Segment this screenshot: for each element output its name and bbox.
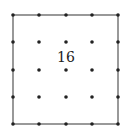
grid-dot: [64, 122, 68, 126]
grid-dot: [11, 122, 15, 126]
grid-dot: [37, 13, 41, 17]
grid-dot: [116, 40, 120, 44]
grid-dots: [11, 13, 120, 126]
grid-dot: [116, 95, 120, 99]
grid-dot: [116, 122, 120, 126]
grid-dot: [11, 13, 15, 17]
grid-dot: [90, 68, 94, 72]
grid-dot: [37, 122, 41, 126]
grid-dot: [37, 68, 41, 72]
grid-dot: [11, 68, 15, 72]
grid-dot: [116, 13, 120, 17]
grid-dot: [37, 40, 41, 44]
grid-dot: [64, 13, 68, 17]
grid-dot: [90, 40, 94, 44]
grid-dot: [90, 95, 94, 99]
grid-dot: [116, 68, 120, 72]
grid-dot: [64, 40, 68, 44]
grid-dot: [64, 95, 68, 99]
grid-dot: [11, 40, 15, 44]
area-label: 16: [57, 50, 75, 64]
grid-dot: [11, 95, 15, 99]
dot-grid-figure: 16: [0, 0, 124, 129]
grid-dot: [64, 68, 68, 72]
grid-dot: [90, 122, 94, 126]
grid-dot: [90, 13, 94, 17]
grid-dot: [37, 95, 41, 99]
